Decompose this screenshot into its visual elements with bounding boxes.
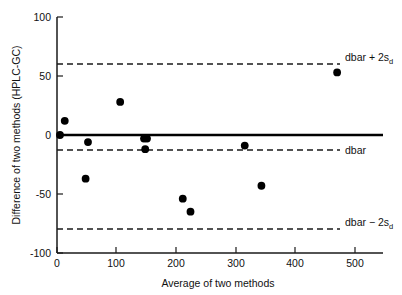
y-tick-label-50: 50 [39,70,51,82]
data-point [116,98,124,106]
y-tick-label-neg50: -50 [36,188,51,200]
x-tick-label-500: 500 [346,257,364,269]
data-point [241,142,249,150]
y-tick-label-0: 0 [45,129,51,141]
data-point [61,117,69,125]
data-point [258,182,266,190]
upper-limit-label-text: dbar + 2s [345,51,389,63]
y-axis-title: Difference of two methods (HPLC-GC) [10,46,22,225]
data-point [141,145,149,153]
scatter-points-layer [56,69,341,216]
data-point [56,131,64,139]
data-point [82,175,90,183]
upper-limit-label: dbar + 2sd [345,51,393,66]
y-tick-label-100: 100 [33,11,51,23]
data-point [143,135,151,143]
lower-limit-label-text: dbar − 2s [345,216,389,228]
x-tick-label-400: 400 [286,257,304,269]
data-point [333,69,341,77]
x-tick-label-200: 200 [167,257,185,269]
lower-limit-label-subscript: d [389,222,393,231]
lower-limit-label: dbar − 2sd [345,216,393,231]
data-point [187,208,195,216]
data-point [84,138,92,146]
x-tick-label-300: 300 [227,257,245,269]
y-tick-label-neg100: -100 [30,247,51,259]
data-point [179,195,187,203]
x-tick-label-100: 100 [107,257,125,269]
x-tick-label-0: 0 [54,257,60,269]
mean-bias-label: dbar [345,144,367,156]
plot-canvas: 100 50 0 -50 -100 0 100 200 300 400 500 … [0,0,402,295]
upper-limit-label-subscript: d [389,57,393,66]
x-axis-title: Average of two methods [161,277,274,289]
bland-altman-figure: 100 50 0 -50 -100 0 100 200 300 400 500 … [0,0,402,295]
